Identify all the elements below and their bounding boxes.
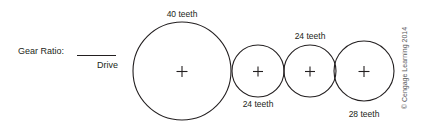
gear-ratio-worksheet-figure: Gear Ratio: Drive 40 teeth 24 teeth 24 t… xyxy=(0,0,430,136)
gear-ratio-prompt-label: Gear Ratio: xyxy=(18,46,64,56)
gear-4-center-cross-icon xyxy=(359,66,370,77)
gear-4-teeth-label: 28 teeth xyxy=(349,109,380,119)
gear-1-teeth-label: 40 teeth xyxy=(167,9,198,19)
gear-3-center-cross-icon xyxy=(305,67,315,77)
copyright-notice: © Cengage Learning 2014 xyxy=(401,27,409,109)
gear-3-teeth-label: 24 teeth xyxy=(295,31,326,41)
gear-ratio-answer-blank[interactable] xyxy=(77,55,116,56)
gear-1-center-cross-icon xyxy=(177,66,188,77)
gear-2-center-cross-icon xyxy=(253,67,263,77)
drive-label: Drive xyxy=(97,60,118,70)
gear-2-teeth-label: 24 teeth xyxy=(243,99,274,109)
